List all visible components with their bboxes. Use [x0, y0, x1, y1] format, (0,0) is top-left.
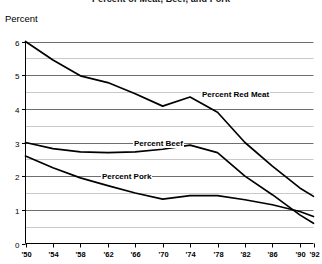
series-label-red-meat: Percent Red Meat [201, 90, 270, 99]
x-tick-label: '62 [103, 250, 113, 259]
y-tick-label: 4 [15, 106, 20, 115]
plot-svg: 0123456 '50'54'58'62'66'70'74'78'82'86'9… [0, 0, 322, 264]
y-tick-label: 2 [15, 173, 20, 182]
x-tick-label: '70 [158, 250, 168, 259]
y-tick-label: 5 [15, 72, 20, 81]
x-tick-label: '58 [75, 250, 85, 259]
x-tick-label: '54 [48, 250, 59, 259]
series-line [26, 143, 314, 224]
x-tick-label: '78 [213, 250, 223, 259]
y-tick-label: 0 [15, 241, 20, 250]
y-tick-label: 1 [15, 207, 20, 216]
data-series-lines [26, 42, 314, 224]
x-axis-ticks: '50'54'58'62'66'70'74'78'82'86'90'92 [21, 244, 319, 259]
series-label-beef: Percent Beef [133, 139, 184, 148]
x-tick-label: '50 [21, 250, 31, 259]
x-tick-label: '66 [130, 250, 140, 259]
x-tick-label: '74 [185, 250, 196, 259]
series-label-pork: Percent Pork [101, 172, 152, 181]
y-tick-label: 3 [15, 140, 20, 149]
x-tick-label: '92 [309, 250, 319, 259]
y-axis-ticks: 0123456 [15, 39, 25, 250]
y-tick-label: 6 [15, 39, 20, 48]
x-tick-label: '86 [267, 250, 277, 259]
chart-container: Percent of Meat, Beef, and Pork Percent … [0, 0, 322, 264]
x-tick-label: '90 [295, 250, 305, 259]
x-tick-label: '82 [240, 250, 250, 259]
